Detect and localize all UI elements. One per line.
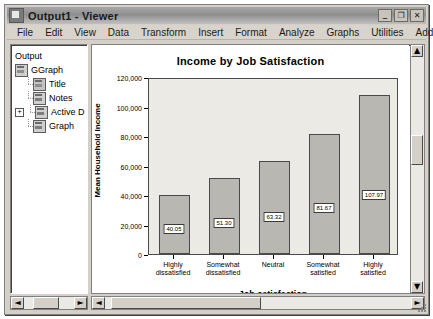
tree-item-title-label: Title [49,79,66,89]
x-axis-title: Job satisfaction [148,289,398,294]
tree-item-output[interactable]: Output [15,49,87,63]
y-axis-title-text: Mean Household Income [93,103,102,197]
y-axis-tick-label: 120,000 [92,75,142,82]
menu-graphs[interactable]: Graphs [320,27,365,38]
maximize-button[interactable]: ❐ [394,9,408,22]
ggraph-icon [15,64,28,77]
y-axis-tick-label: 80,000 [92,134,142,141]
tree-item-output-label: Output [15,51,42,61]
menu-analyze[interactable]: Analyze [273,27,321,38]
y-axis-tick-label: 60,000 [92,163,142,170]
y-axis-tick-label: 0 [92,252,142,259]
tree-connector [24,77,33,91]
tree-item-graph[interactable]: Graph [15,119,87,133]
plot-area: 40.0551.3063.3281.67107.97 [148,78,398,255]
menu-data[interactable]: Data [102,27,135,38]
menu-transform[interactable]: Transform [135,27,192,38]
bar[interactable]: 81.67 [309,134,340,254]
y-axis-title: Mean Household Income [91,75,104,225]
viewer-pane[interactable]: Income by Job Satisfaction Mean Househol… [91,44,425,294]
x-axis-tick-mark [373,255,374,259]
chart-title: Income by Job Satisfaction [92,55,409,67]
x-axis-tick-mark [173,255,174,259]
tree-connector [24,91,33,105]
tree-item-title[interactable]: Title [15,77,87,91]
x-axis-tick-mark [323,255,324,259]
bar-series: 40.0551.3063.3281.67107.97 [149,79,397,254]
bar-data-label: 63.32 [263,212,284,222]
bar[interactable]: 63.32 [259,161,290,254]
bar-data-label: 51.30 [213,218,234,228]
spss-viewer-window: Output1 - Viewer – ❐ ✕ File Edit View Da… [4,4,429,315]
graph-icon [33,120,46,133]
menu-bar: File Edit View Data Transform Insert For… [7,25,426,40]
bar-data-label: 81.67 [313,203,334,213]
tree-item-graph-label: Graph [49,121,74,131]
outline-scroll-left-button[interactable]: ◄ [11,297,24,309]
y-axis-tick-label: 20,000 [92,222,142,229]
outline-scroll-right-button[interactable]: ► [74,297,87,309]
bar-data-label: 40.05 [163,224,184,234]
tree-item-active-dataset-label: Active D [51,107,85,117]
window-title: Output1 - Viewer [28,10,378,22]
y-axis-tick-label: 40,000 [92,193,142,200]
viewer-vertical-scrollbar[interactable]: ▲ ▼ [410,45,424,293]
menu-add-ons[interactable]: Add-ons [409,27,433,38]
tree-connector [24,119,33,133]
tree-item-notes[interactable]: Notes [15,91,87,105]
x-axis-category-label: Highlysatisfied [344,261,402,277]
menu-view[interactable]: View [68,27,102,38]
notes-icon [33,92,46,105]
tree-item-active-dataset[interactable]: + Active D [15,105,87,119]
outline-tree: Output GGraph Title Notes + [11,45,87,133]
y-axis-tick-mark [144,255,148,256]
bar[interactable]: 107.97 [359,95,390,254]
tree-expander-icon[interactable]: + [15,108,24,117]
x-axis-tick-mark [273,255,274,259]
close-button[interactable]: ✕ [410,9,424,22]
outline-pane[interactable]: Output GGraph Title Notes + [10,44,88,294]
outline-scroll-track[interactable] [24,297,74,309]
outline-scroll-thumb[interactable] [33,297,59,309]
viewer-scroll-left-button[interactable]: ◄ [92,297,105,309]
bar[interactable]: 40.05 [159,195,190,254]
outline-horizontal-scrollbar[interactable]: ◄ ► [10,296,88,310]
window-buttons: – ❐ ✕ [378,9,424,22]
tree-item-ggraph[interactable]: GGraph [15,63,87,77]
title-icon [33,78,46,91]
bar[interactable]: 51.30 [209,178,240,254]
menu-file[interactable]: File [11,27,39,38]
viewer-horizontal-scrollbar[interactable]: ◄ ► [91,296,425,310]
title-bar[interactable]: Output1 - Viewer – ❐ ✕ [7,7,426,24]
active-dataset-icon [35,106,48,119]
scroll-down-button[interactable]: ▼ [411,281,423,293]
tree-item-ggraph-label: GGraph [31,65,63,75]
spss-viewer-icon [9,8,24,23]
x-axis-tick-mark [223,255,224,259]
tree-item-notes-label: Notes [49,93,73,103]
vertical-scroll-thumb[interactable] [411,135,423,165]
chart[interactable]: Income by Job Satisfaction Mean Househol… [92,45,409,293]
menu-edit[interactable]: Edit [39,27,68,38]
menu-utilities[interactable]: Utilities [365,27,409,38]
minimize-button[interactable]: – [378,9,392,22]
scroll-up-button[interactable]: ▲ [411,45,423,57]
resize-grip[interactable] [414,300,426,312]
menu-insert[interactable]: Insert [192,27,229,38]
tree-connector [26,105,35,119]
bar-data-label: 107.97 [362,190,386,200]
menu-format[interactable]: Format [229,27,273,38]
viewer-scroll-track[interactable] [105,297,411,309]
y-axis-tick-label: 100,000 [92,104,142,111]
viewer-scroll-thumb[interactable] [111,297,261,309]
